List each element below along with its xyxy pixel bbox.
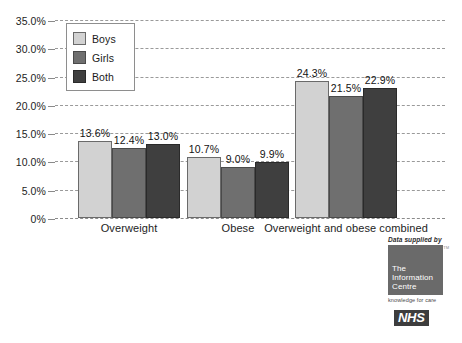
information-centre-logo: Data supplied by TM The Information Cent… <box>388 236 454 326</box>
y-tick-mark-15 <box>48 134 55 135</box>
logo-caption: Data supplied by <box>388 236 454 243</box>
x-axis-label-3: Overweight and obese combined <box>236 222 456 234</box>
nhs-badge: NHS <box>394 310 429 326</box>
bar-girls-2 <box>221 167 255 218</box>
logo-box: TM The Information Centre <box>388 245 443 295</box>
bar-boys-2 <box>187 157 221 218</box>
bar-both-1 <box>146 144 180 218</box>
y-tick-label-20: 20.0% <box>16 100 46 112</box>
bar-value-label-both-2: 9.9% <box>249 148 295 160</box>
y-tick-label-15: 15.0% <box>16 128 46 140</box>
y-tick-mark-25 <box>48 78 55 79</box>
y-tick-mark-0 <box>48 219 55 220</box>
logo-line-information: Information <box>392 273 433 282</box>
legend-label-both: Both <box>92 71 114 83</box>
y-tick-label-30: 30.0% <box>16 43 46 55</box>
bar-boys-3 <box>295 81 329 218</box>
y-tick-label-10: 10.0% <box>16 156 46 168</box>
y-tick-mark-5 <box>48 191 55 192</box>
logo-line-the: The <box>392 264 433 273</box>
y-tick-mark-10 <box>48 162 55 163</box>
chart-legend: Boys Girls Both <box>66 23 135 91</box>
bar-value-label-boys-3: 24.3% <box>289 67 335 79</box>
y-tick-mark-35 <box>48 21 55 22</box>
gridline-35: 35.0% <box>55 20 445 21</box>
bar-girls-3 <box>329 96 363 218</box>
legend-swatch-both <box>73 70 86 83</box>
bar-both-2 <box>255 162 289 218</box>
legend-label-boys: Boys <box>92 33 116 45</box>
gridline-0: 0% <box>55 218 445 219</box>
logo-tagline: knowledge for care <box>388 297 454 303</box>
legend-item-both: Both <box>73 67 134 86</box>
y-tick-mark-20 <box>48 106 55 107</box>
legend-item-girls: Girls <box>73 48 134 67</box>
y-tick-label-5: 5.0% <box>22 185 46 197</box>
bar-boys-1 <box>78 141 112 218</box>
y-tick-label-25: 25.0% <box>16 72 46 84</box>
bar-both-3 <box>363 88 397 218</box>
trademark-icon: TM <box>443 245 449 250</box>
bar-value-label-both-3: 22.9% <box>357 74 403 86</box>
y-tick-label-35: 35.0% <box>16 15 46 27</box>
legend-swatch-boys <box>73 32 86 45</box>
bar-girls-1 <box>112 148 146 218</box>
legend-label-girls: Girls <box>92 52 114 64</box>
logo-line-centre: Centre <box>392 282 433 291</box>
y-tick-mark-30 <box>48 49 55 50</box>
legend-swatch-girls <box>73 51 86 64</box>
bar-value-label-both-1: 13.0% <box>140 130 186 142</box>
logo-box-text: The Information Centre <box>392 264 433 291</box>
chart-page: 35.0%30.0%25.0%20.0%15.0%10.0%5.0%0% 13.… <box>0 0 462 343</box>
legend-item-boys: Boys <box>73 29 134 48</box>
